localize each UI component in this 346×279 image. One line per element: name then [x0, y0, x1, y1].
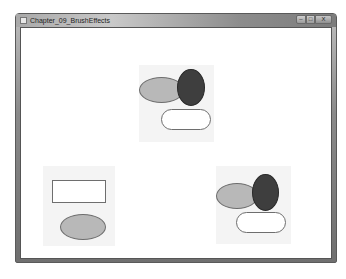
- close-button[interactable]: X: [315, 15, 332, 24]
- minimize-button[interactable]: –: [296, 15, 306, 24]
- bottom-left-group: [43, 166, 115, 246]
- dark-ellipse: [252, 174, 279, 211]
- light-ellipse: [60, 214, 106, 240]
- window-title: Chapter_09_BrushEffects: [30, 15, 110, 26]
- window-controls: – □ X: [296, 15, 332, 24]
- dark-ellipse: [177, 69, 205, 106]
- white-rounded-rect: [236, 212, 286, 233]
- app-icon[interactable]: [20, 17, 27, 24]
- white-rectangle: [52, 180, 106, 203]
- maximize-button[interactable]: □: [306, 15, 315, 24]
- bottom-right-group: [216, 166, 291, 244]
- drawing-canvas: [20, 27, 332, 259]
- white-rounded-rect: [161, 109, 211, 130]
- app-window: Chapter_09_BrushEffects – □ X: [15, 13, 337, 263]
- top-center-group: [139, 65, 214, 142]
- title-bar[interactable]: Chapter_09_BrushEffects – □ X: [16, 14, 336, 27]
